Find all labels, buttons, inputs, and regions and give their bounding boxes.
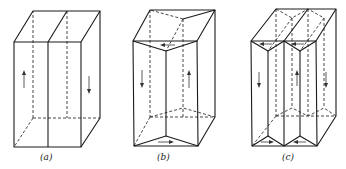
- arrow-left-icon: [293, 140, 306, 144]
- panel-b-label: (b): [157, 152, 170, 162]
- arrow-up-icon: [295, 70, 299, 86]
- arrow-right-icon: [158, 140, 174, 144]
- arrow-left-icon: [291, 42, 304, 46]
- panel-c: (c): [251, 9, 336, 162]
- panel-a-label: (a): [40, 152, 53, 162]
- arrow-right-icon: [261, 140, 274, 144]
- arrow-up-icon: [187, 70, 191, 88]
- panel-a: (a): [14, 11, 100, 162]
- arrow-up-icon: [22, 70, 26, 88]
- arrow-down-icon: [324, 72, 328, 88]
- panel-c-label: (c): [282, 152, 295, 162]
- domain-structure-diagram: (a) (: [0, 0, 346, 169]
- arrow-left-icon: [160, 43, 175, 47]
- arrow-left-icon: [259, 42, 272, 46]
- arrow-down-icon: [257, 72, 261, 88]
- arrow-down-icon: [87, 76, 91, 94]
- panel-b: (b): [133, 10, 215, 162]
- arrow-down-icon: [140, 70, 144, 88]
